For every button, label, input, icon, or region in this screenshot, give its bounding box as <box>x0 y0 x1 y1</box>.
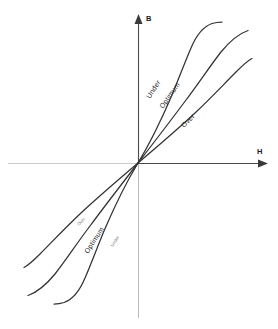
bh-curve-figure: B H Under Optimum Over Over Optimum Unde… <box>0 0 278 329</box>
curve-label-under-upper: Under <box>145 79 162 100</box>
h-axis-arrowhead <box>258 160 268 168</box>
curve-label-under-lower: Under <box>110 234 121 247</box>
axes-group <box>8 14 268 318</box>
curve-label-optimum-upper: Optimum <box>158 81 182 110</box>
b-axis-arrowhead <box>135 14 143 24</box>
curves-lower-group <box>24 163 138 304</box>
curve-over-upper <box>138 59 252 164</box>
curve-optimum-upper <box>138 31 248 164</box>
curve-optimum-lower <box>28 163 138 296</box>
bh-curve-plot: B H Under Optimum Over Over Optimum Unde… <box>0 0 278 329</box>
curve-over-lower <box>24 163 138 268</box>
h-axis-label: H <box>257 147 262 156</box>
curve-label-over-lower: Over <box>76 216 87 227</box>
b-axis-label: B <box>146 14 152 23</box>
